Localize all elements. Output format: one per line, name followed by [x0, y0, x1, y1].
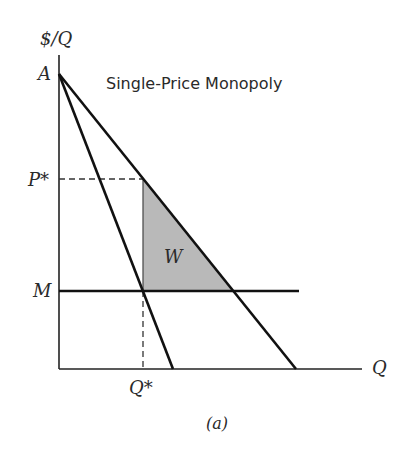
monopoly-diagram: $/Q A P* M Q* Q W Single-Price Monopoly … — [0, 0, 416, 455]
figure-title: Single-Price Monopoly — [106, 74, 282, 93]
figure-caption: (a) — [206, 414, 228, 433]
label-m: M — [32, 280, 52, 301]
demand-curve — [59, 74, 296, 369]
label-a: A — [36, 63, 51, 84]
label-p-star: P* — [27, 169, 49, 190]
y-axis-label: $/Q — [40, 28, 73, 49]
label-q-star: Q* — [129, 377, 153, 398]
x-axis-label: Q — [372, 357, 387, 378]
label-w: W — [164, 246, 184, 267]
